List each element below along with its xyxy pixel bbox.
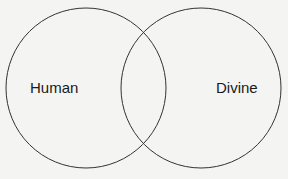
set-label-divine: Divine — [216, 80, 258, 95]
set-label-human: Human — [30, 80, 78, 95]
